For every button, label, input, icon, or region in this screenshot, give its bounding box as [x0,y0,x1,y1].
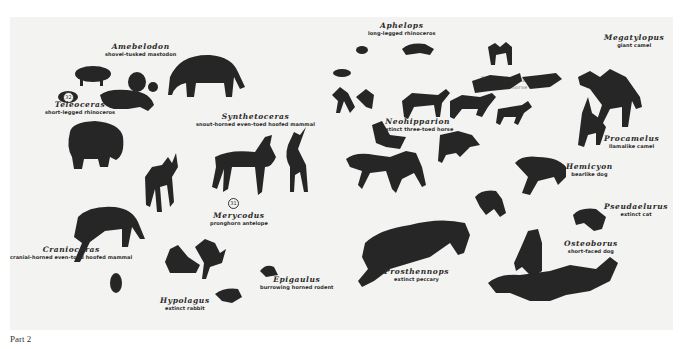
synthetoceras-silhouettes [212,127,308,195]
common-name: bearlike dog [566,171,613,178]
common-name: extinct cat [604,211,668,218]
common-name: short-faced dog [564,248,618,255]
common-name: llamalike camel [604,143,659,150]
genus-name: Neohipparion [382,117,453,126]
pseudaelurus-silhouette [573,209,606,231]
common-name: burrowing horned rodent [260,284,334,291]
genus-name: Merycodus [210,211,268,220]
common-name: extinct rabbit [160,305,210,312]
genus-name: Prosthennops [384,267,449,276]
label-prosthennops: Prosthennops extinct peccary [384,267,449,283]
label-amebelodon: Amebelodon shovel-tusked mastodon [105,42,176,58]
genus-name: Synthetoceras [196,112,315,121]
label-hypolagus: Hypolagus extinct rabbit [160,296,210,312]
label-hemicyon: Hemicyon bearlike dog [566,162,613,178]
genus-name: Pliohippus [480,75,531,84]
genus-name: Pseudaelurus [604,202,668,211]
label-aphelops: Aphelops long-legged rhinoceros [368,21,436,37]
mastodon-silhouettes [75,55,245,97]
label-synthetoceras: Synthetoceras snout-horned even-toed hoo… [196,112,315,128]
common-name: long-legged rhinoceros [368,30,436,37]
label-merycodus: Merycodus pronghorn antelope [210,211,268,227]
genus-name: Hemicyon [566,162,613,171]
genus-name: Teleoceras [45,100,115,109]
common-name: extinct peccary [384,276,449,283]
label-megatylopus: Megatylopus giant camel [604,33,664,49]
genus-name: Aphelops [368,21,436,30]
common-name: one-toed horse [480,84,531,91]
label-osteoborus: Osteoborus short-faced dog [564,239,618,255]
label-pliohippus: Pliohippus one-toed horse [480,75,531,91]
label-pseudaelurus: Pseudaelurus extinct cat [604,202,668,218]
genus-name: Amebelodon [105,42,176,51]
common-name: giant camel [604,42,664,49]
label-cranioceras: Cranioceras cranial-horned even-toed hoo… [10,245,132,261]
common-name: extinct three-toed horse [382,126,453,133]
illustration-plate: 32 31 Amebelodon shovel-tusked mastodon … [10,17,673,330]
common-name: snout-horned even-toed hoofed mammal [196,121,315,128]
genus-name: Epigaulus [260,275,334,284]
genus-name: Hypolagus [160,296,210,305]
figure-caption: Part 2 [10,334,31,344]
hemicyon-silhouette [515,157,566,195]
label-teleoceras: Teleoceras short-legged rhinoceros [45,100,115,116]
common-name: cranial-horned even-toed hoofed mammal [10,254,132,261]
marker-31: 31 [228,198,239,209]
common-name: shovel-tusked mastodon [105,51,176,58]
genus-name: Procamelus [604,134,659,143]
genus-name: Osteoborus [564,239,618,248]
label-epigaulus: Epigaulus burrowing horned rodent [260,275,334,291]
label-procamelus: Procamelus llamalike camel [604,134,659,150]
common-name: pronghorn antelope [210,220,268,227]
common-name: short-legged rhinoceros [45,109,115,116]
label-neohipparion: Neohipparion extinct three-toed horse [382,117,453,133]
genus-name: Cranioceras [10,245,132,254]
genus-name: Megatylopus [604,33,664,42]
merycodus-silhouettes [165,239,226,279]
aphelops-silhouettes [333,42,512,77]
